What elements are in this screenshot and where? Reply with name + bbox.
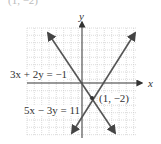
equation-label-line-1: 3x + 2y = −1 [10,69,67,80]
equation-label-line-2: 5x − 3y = 11 [24,105,80,116]
x-axis-label: x [148,78,153,89]
y-axis-label: y [79,11,84,22]
intersection-point [90,96,94,100]
intersection-label: (1, −2) [99,93,129,104]
